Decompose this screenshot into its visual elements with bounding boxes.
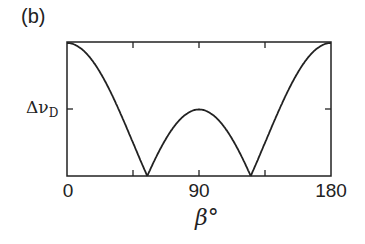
x-tick-0: 0 [63,180,74,202]
x-tick-90: 90 [188,180,209,202]
y-tick-label: ΔνD [26,97,58,120]
y-tick-subscript: D [49,106,59,120]
x-tick-180: 180 [315,180,347,202]
y-tick-symbol: Δν [26,97,49,117]
plot-area [0,0,365,244]
x-axis-label: β° [195,205,219,230]
data-curve [67,43,331,175]
